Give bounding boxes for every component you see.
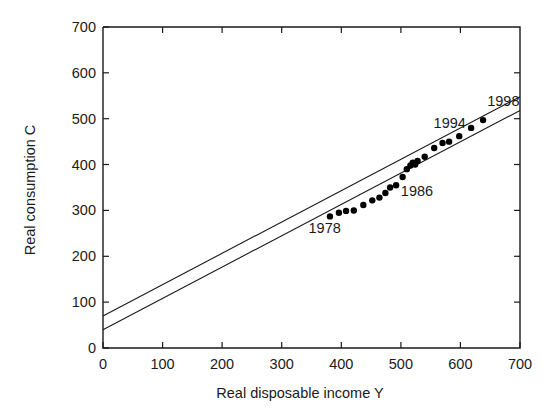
y-tick-label-500: 500 (72, 111, 96, 127)
data-point (456, 133, 462, 139)
data-point (439, 140, 445, 146)
x-tick-label-200: 200 (210, 356, 234, 372)
annotation-1998: 1998 (487, 93, 519, 109)
x-axis-title: Real disposable income Y (216, 385, 384, 401)
plot-axes-frame (103, 27, 520, 348)
x-tick-label-0: 0 (99, 356, 107, 372)
data-point (399, 174, 405, 180)
data-point (360, 202, 366, 208)
annotation-1994: 1994 (434, 115, 466, 131)
y-axis-ticks (103, 27, 109, 348)
annotation-1986: 1986 (401, 183, 433, 199)
x-tick-label-100: 100 (150, 356, 174, 372)
chart-figure: 0 100 200 300 400 500 600 700 0 100 200 … (0, 0, 559, 415)
scatter-plot-svg: 0 100 200 300 400 500 600 700 0 100 200 … (0, 0, 559, 415)
fit-lines-group (103, 97, 520, 330)
data-point (327, 213, 333, 219)
y-tick-label-0: 0 (88, 340, 96, 356)
x-tick-label-700: 700 (508, 356, 532, 372)
data-point (421, 154, 427, 160)
y-axis-title: Real consumption C (22, 125, 38, 256)
y-tick-label-700: 700 (72, 19, 96, 35)
data-point (343, 208, 349, 214)
y-axis-tick-labels: 0 100 200 300 400 500 600 700 (72, 19, 96, 356)
y-tick-label-200: 200 (72, 248, 96, 264)
y-tick-label-300: 300 (72, 202, 96, 218)
x-tick-label-300: 300 (270, 356, 294, 372)
data-point (382, 190, 388, 196)
plot-border (103, 27, 520, 348)
data-point (351, 207, 357, 213)
data-point (446, 138, 452, 144)
scatter-points-group (327, 117, 487, 220)
data-point (336, 210, 342, 216)
y-tick-label-100: 100 (72, 294, 96, 310)
data-point (414, 158, 420, 164)
data-point (468, 125, 474, 131)
annotation-1978: 1978 (309, 220, 341, 236)
y-tick-label-600: 600 (72, 65, 96, 81)
x-tick-label-500: 500 (389, 356, 413, 372)
data-point (431, 145, 437, 151)
y-tick-label-400: 400 (72, 157, 96, 173)
x-tick-label-400: 400 (329, 356, 353, 372)
data-point (480, 117, 486, 123)
x-axis-tick-labels: 0 100 200 300 400 500 600 700 (99, 356, 532, 372)
data-point (369, 197, 375, 203)
data-point (387, 184, 393, 190)
x-tick-label-600: 600 (448, 356, 472, 372)
data-point (393, 182, 399, 188)
x-axis-ticks (103, 27, 520, 348)
data-point (376, 194, 382, 200)
